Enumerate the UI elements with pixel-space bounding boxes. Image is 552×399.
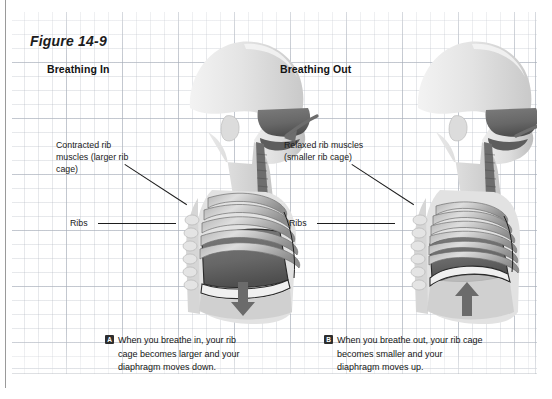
callout-ribs-left: Ribs	[70, 218, 88, 228]
column-heading-breathing-out: Breathing Out	[280, 63, 351, 75]
caption-b-text: When you breathe out, your rib cage beco…	[337, 334, 484, 374]
leader-line-ribs-left	[98, 223, 176, 224]
figure-page: Figure 14-9 Breathing In Breathing Out C…	[0, 0, 552, 399]
panel-bottom-edge	[12, 373, 537, 374]
caption-badge-b: B	[324, 335, 333, 344]
head-shape	[190, 42, 304, 118]
caption-b: B When you breathe out, your rib cage be…	[324, 334, 484, 374]
caption-a-text: When you breathe in, your rib cage becom…	[118, 334, 255, 374]
leader-line-ribs-right	[317, 223, 395, 224]
callout-contracted-rib-muscles: Contracted rib muscles (larger rib cage)	[56, 139, 142, 176]
page-gutter-rule	[5, 0, 6, 388]
figure-title: Figure 14-9	[30, 33, 107, 49]
column-heading-breathing-in: Breathing In	[47, 63, 109, 75]
callout-ribs-right: Ribs	[289, 218, 307, 228]
figure-panel: Figure 14-9 Breathing In Breathing Out C…	[12, 12, 537, 374]
illustration-breathing-in	[183, 42, 317, 324]
caption-a: A When you breathe in, your rib cage bec…	[105, 334, 255, 374]
callout-relaxed-rib-muscles: Relaxed rib muscles (smaller rib cage)	[284, 139, 370, 163]
illustration-breathing-out	[411, 42, 537, 324]
caption-badge-a: A	[105, 335, 114, 344]
head-shape	[418, 42, 532, 118]
figure-content: Figure 14-9 Breathing In Breathing Out C…	[12, 12, 537, 374]
